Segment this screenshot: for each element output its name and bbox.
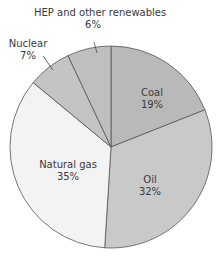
label-coal-pct: 19% <box>132 99 172 111</box>
label-coal: Coal 19% <box>132 87 172 111</box>
label-hep: HEP and other renewables 6% <box>34 7 152 31</box>
label-hep-pct: 6% <box>34 19 152 31</box>
label-gas-pct: 35% <box>36 171 100 183</box>
label-oil: Oil 32% <box>135 174 165 198</box>
label-nuclear-pct: 7% <box>8 50 48 62</box>
label-hep-name: HEP and other renewables <box>34 7 152 19</box>
label-nuclear-name: Nuclear <box>8 38 48 50</box>
label-natural-gas: Natural gas 35% <box>36 159 100 183</box>
label-coal-name: Coal <box>132 87 172 99</box>
label-oil-pct: 32% <box>135 186 165 198</box>
label-nuclear: Nuclear 7% <box>8 38 48 62</box>
label-gas-name: Natural gas <box>36 159 100 171</box>
label-oil-name: Oil <box>135 174 165 186</box>
